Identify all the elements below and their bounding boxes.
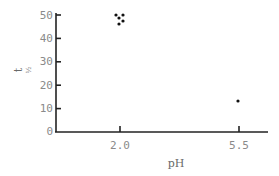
data-point	[236, 99, 239, 102]
y-axis-label: t ½	[12, 66, 33, 73]
x-tick-label-5.5: 5.5	[229, 139, 249, 152]
y-tick-label-20: 20	[40, 79, 53, 92]
scatter-chart: 50 40 30 20 10 0 2.0 5.5 pH t ½	[0, 0, 279, 176]
y-tick-label-30: 30	[40, 55, 53, 68]
y-tick-label-10: 10	[40, 102, 53, 115]
x-tick-label-2.0: 2.0	[110, 139, 130, 152]
data-point	[121, 19, 124, 22]
data-point	[117, 22, 120, 25]
svg-text:½: ½	[25, 66, 33, 73]
data-point	[114, 13, 117, 16]
data-point	[117, 16, 120, 19]
y-tick-label-0: 0	[46, 125, 53, 138]
data-points	[114, 13, 239, 102]
y-tick-label-50: 50	[40, 9, 53, 22]
svg-text:t: t	[12, 67, 25, 72]
x-axis-label: pH	[168, 157, 185, 170]
y-tick-label-40: 40	[40, 32, 53, 45]
data-point	[121, 13, 124, 16]
